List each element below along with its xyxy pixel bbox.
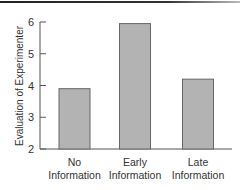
category-label: Information: [109, 169, 162, 181]
y-axis-label: Evaluation of Experimenter: [14, 25, 25, 146]
bar-3: [183, 79, 214, 149]
y-tick-label: 2: [28, 143, 34, 155]
y-tick-label: 5: [28, 48, 34, 60]
category-label: Early: [123, 156, 148, 168]
category-label: Information: [48, 169, 101, 181]
y-tick-label: 6: [28, 16, 34, 28]
bar-2: [120, 24, 151, 149]
category-label: No: [68, 156, 82, 168]
bars: [59, 24, 214, 149]
bar-1: [59, 89, 90, 149]
y-tick-label: 3: [28, 111, 34, 123]
category-label: Late: [188, 156, 209, 168]
category-label: Information: [172, 169, 225, 181]
bar-chart: 23456 NoInformationEarlyInformationLateI…: [0, 0, 244, 190]
category-labels: NoInformationEarlyInformationLateInforma…: [48, 156, 224, 181]
y-tick-label: 4: [28, 80, 34, 92]
